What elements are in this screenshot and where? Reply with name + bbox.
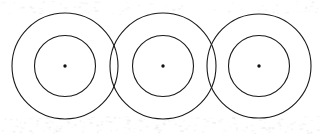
figure-background <box>0 0 322 134</box>
left-center-point <box>63 64 66 67</box>
right-center-point <box>257 64 260 67</box>
concentric-circles-figure: Three overlapping concentric circles wit… <box>0 0 322 134</box>
circles-drawing-svg <box>0 0 322 134</box>
middle-center-point <box>161 64 164 67</box>
